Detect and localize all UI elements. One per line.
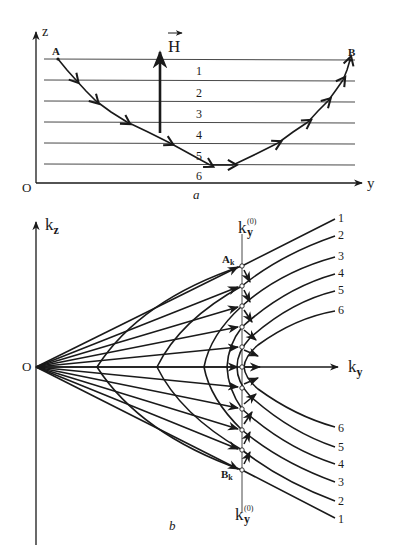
curve-labels-upper: 1 2 3 4 5 6 [338,211,344,317]
svg-text:4: 4 [338,266,344,280]
svg-text:6: 6 [338,303,344,317]
layer-6: 6 [196,169,202,183]
layer-5: 5 [196,149,202,163]
ky0-label-top: k (0) y [238,217,257,239]
curve-labels-lower: 6 5 4 3 2 1 [338,421,344,526]
svg-text:5: 5 [338,283,344,297]
panel-a: z y O A B H 1 2 3 4 5 6 a [22,24,375,202]
origin-label-b: O [22,359,31,374]
ky-axis-label: ky [348,357,363,379]
svg-text:2: 2 [338,494,344,508]
point-bk-label: Bk [221,468,233,482]
figure: z y O A B H 1 2 3 4 5 6 a [0,0,395,558]
layer-2: 2 [196,86,202,100]
point-b-label: B [348,46,356,58]
svg-text:1: 1 [338,211,344,225]
svg-text:k: k [238,218,247,237]
y-axis-label: y [367,175,375,191]
svg-text:2: 2 [338,228,344,242]
svg-text:6: 6 [338,421,344,435]
caption-b: b [169,518,176,533]
ky0-label-bottom: k (0) y [235,504,254,526]
point-ak-label: Ak [222,253,235,267]
point-a-label: A [52,45,60,57]
ray-trajectory [56,57,351,165]
kz-axis-label: kz [45,215,60,237]
panel-b: kz ky O k (0) y k (0) y Ak Bk 1 2 3 4 5 … [22,211,363,545]
layer-4: 4 [196,128,202,142]
origin-label: O [22,180,31,195]
caption-a: a [193,187,200,202]
svg-text:y: y [247,225,253,239]
svg-text:4: 4 [338,457,344,471]
svg-text:1: 1 [338,512,344,526]
layer-3: 3 [196,107,202,121]
group-velocity-arrows [244,270,260,464]
svg-text:k: k [235,505,244,524]
field-label-h: H [168,37,180,56]
layer-numbers: 1 2 3 4 5 6 [196,64,202,183]
dispersion-curves [97,219,335,518]
svg-text:5: 5 [338,440,344,454]
svg-text:y: y [244,512,250,526]
svg-text:3: 3 [338,249,344,263]
rays-from-origin [36,267,238,469]
svg-text:3: 3 [338,475,344,489]
layer-1: 1 [196,64,202,78]
z-axis-label: z [42,24,48,39]
